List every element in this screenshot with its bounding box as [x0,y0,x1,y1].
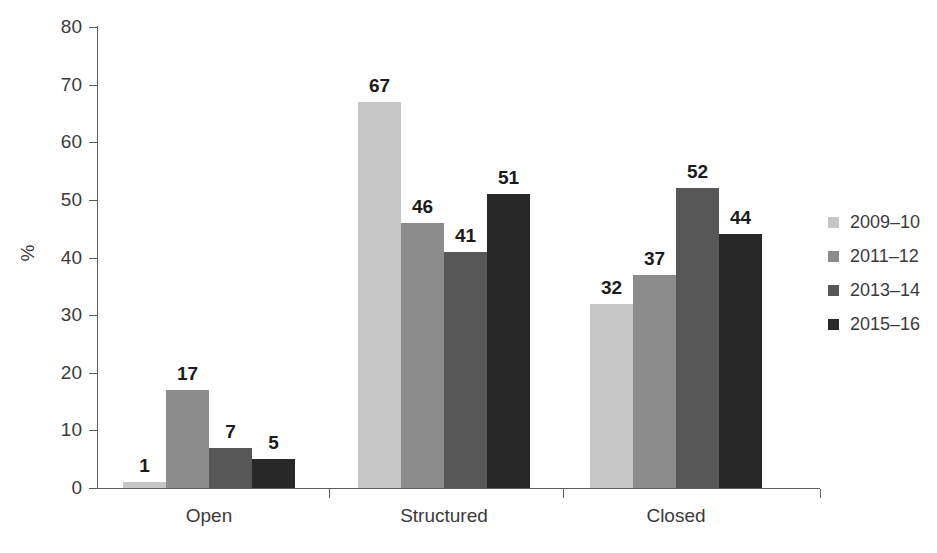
y-tick-mark [89,142,97,143]
y-tick-mark [89,27,97,28]
bar-value-label: 67 [358,76,401,95]
legend-item[interactable]: 2013–14 [828,273,920,307]
bar-value-label: 32 [590,278,633,297]
legend: 2009–102011–122013–142015–16 [828,205,920,341]
y-tick-label: 60 [0,132,82,151]
legend-label: 2011–12 [850,246,919,267]
y-tick-label: 20 [0,363,82,382]
bar-value-label: 5 [252,433,295,452]
x-category-label: Closed [550,505,802,527]
legend-swatch [828,217,839,228]
legend-item[interactable]: 2009–10 [828,205,920,239]
bar [401,223,444,488]
bar-value-label: 44 [719,208,762,227]
y-tick-mark [89,373,97,374]
legend-label: 2013–14 [850,280,920,301]
bar-value-label: 46 [401,197,444,216]
legend-swatch [828,251,839,262]
bar [166,390,209,488]
y-tick-label: 80 [0,17,82,36]
y-tick-label: 40 [0,248,82,267]
bar-value-label: 51 [487,168,530,187]
bar-value-label: 52 [676,162,719,181]
bar-chart: % 01020304050607080 11775674641513237524… [0,0,937,553]
bar [719,234,762,488]
bars-layer [97,27,820,488]
y-tick-label: 10 [0,420,82,439]
bar [633,275,676,488]
y-tick-mark [89,85,97,86]
legend-swatch [828,319,839,330]
bar-value-label: 37 [633,249,676,268]
bar [590,304,633,488]
y-tick-label: 30 [0,305,82,324]
legend-item[interactable]: 2015–16 [828,307,920,341]
y-tick-mark [89,200,97,201]
bar [358,102,401,488]
y-tick-label: 0 [0,478,82,497]
x-category-label: Structured [318,505,570,527]
y-tick-mark [89,315,97,316]
x-tick-mark [329,489,330,498]
bar-value-label: 41 [444,226,487,245]
bar [252,459,295,488]
y-tick-mark [89,430,97,431]
bar-value-label: 17 [166,364,209,383]
x-category-label: Open [83,505,335,527]
y-tick-label: 50 [0,190,82,209]
bar [487,194,530,488]
y-tick-mark [89,488,97,489]
x-tick-mark [820,489,821,498]
bar-value-label: 7 [209,422,252,441]
legend-swatch [828,285,839,296]
y-tick-mark [89,258,97,259]
legend-item[interactable]: 2011–12 [828,239,920,273]
bar-value-label: 1 [123,456,166,475]
x-axis-line [97,488,820,489]
legend-label: 2015–16 [850,314,920,335]
bar [123,482,166,488]
legend-label: 2009–10 [850,212,920,233]
y-tick-label: 70 [0,75,82,94]
bar [444,252,487,488]
bar [676,188,719,488]
x-tick-mark [563,489,564,498]
bar [209,448,252,488]
